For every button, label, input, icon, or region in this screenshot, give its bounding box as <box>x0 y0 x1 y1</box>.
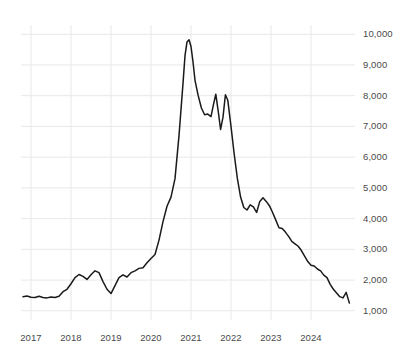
x-tick-label-2020: 2020 <box>131 332 171 343</box>
x-tick-label-2017: 2017 <box>11 332 51 343</box>
x-tick-label-2021: 2021 <box>171 332 211 343</box>
y-tick-label-4000: 4,000 <box>363 213 387 224</box>
y-tick-label-9000: 9,000 <box>363 59 387 70</box>
y-tick-label-10000: 10,000 <box>363 28 393 39</box>
y-tick-label-1000: 1,000 <box>363 305 387 316</box>
data-series-line <box>23 40 349 303</box>
x-tick-label-2018: 2018 <box>51 332 91 343</box>
vertical-gridlines <box>31 25 311 320</box>
x-tick-label-2022: 2022 <box>211 332 251 343</box>
line-chart: 1,0002,0003,0004,0005,0006,0007,0008,000… <box>0 0 403 361</box>
y-tick-label-3000: 3,000 <box>363 243 387 254</box>
x-tick-label-2023: 2023 <box>251 332 291 343</box>
y-tick-label-2000: 2,000 <box>363 274 387 285</box>
x-tick-label-2019: 2019 <box>91 332 131 343</box>
x-tick-label-2024: 2024 <box>291 332 331 343</box>
y-tick-label-7000: 7,000 <box>363 120 387 131</box>
chart-plot-area <box>0 0 403 361</box>
y-tick-label-5000: 5,000 <box>363 182 387 193</box>
y-tick-label-8000: 8,000 <box>363 90 387 101</box>
y-tick-label-6000: 6,000 <box>363 151 387 162</box>
